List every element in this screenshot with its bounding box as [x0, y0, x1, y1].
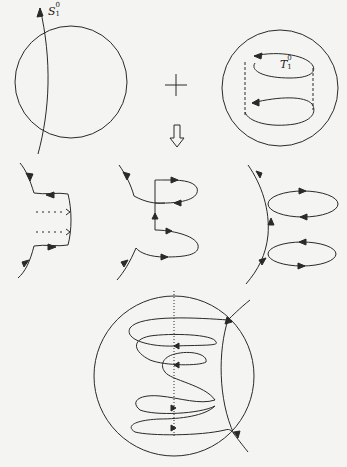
lower-arc — [117, 248, 136, 280]
label-t1-0: T01 — [280, 59, 293, 70]
down-arrow-icon — [170, 125, 184, 147]
panel-bottom — [94, 291, 254, 456]
panel-middle-left — [18, 163, 71, 278]
diagram-canvas — [0, 0, 347, 467]
torus-circle — [222, 30, 338, 146]
helix-curve — [129, 318, 234, 435]
arrowhead-icon — [37, 8, 43, 17]
band — [34, 193, 71, 246]
upper-ellipse — [268, 191, 338, 217]
panel-middle-right — [246, 165, 338, 284]
upper-arc — [119, 165, 165, 203]
panel-middle-center — [117, 165, 198, 280]
sphere-circle — [15, 26, 127, 138]
panel-top-left — [15, 8, 127, 154]
label-s1-0: S01 — [48, 6, 62, 17]
curved-arc — [246, 165, 268, 284]
lower-ellipse — [268, 242, 336, 266]
lower-loop — [136, 230, 198, 257]
upper-arc — [20, 163, 34, 193]
panel-top-right — [222, 30, 338, 146]
plus-icon — [165, 74, 187, 96]
upper-loop — [155, 180, 197, 230]
